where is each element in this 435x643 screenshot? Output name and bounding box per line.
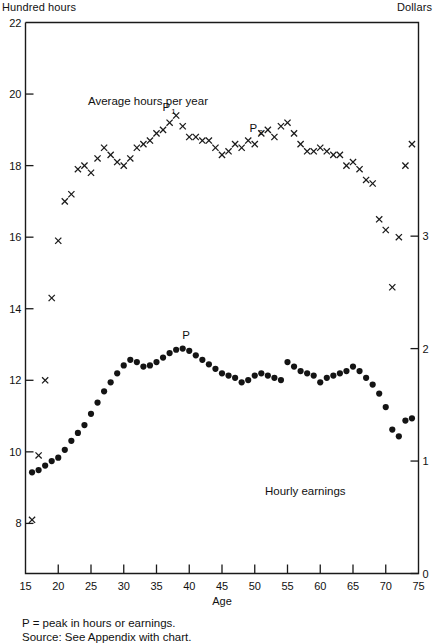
data-point-hours	[252, 141, 258, 147]
data-point-hours	[337, 152, 343, 158]
data-point-hours	[88, 170, 94, 176]
data-point-earnings	[147, 362, 153, 368]
data-point-earnings	[402, 417, 408, 423]
data-point-earnings	[173, 347, 179, 353]
axis-tick-labels: 2220181614121083210152025303540455055606…	[9, 17, 428, 607]
data-point-hours	[212, 145, 218, 151]
data-point-earnings	[271, 375, 277, 381]
data-point-earnings	[94, 399, 100, 405]
y-left-tick-label: 22	[9, 17, 21, 29]
x-tick-label: 65	[347, 580, 359, 592]
data-point-earnings	[409, 415, 415, 421]
data-point-earnings	[252, 372, 258, 378]
data-point-hours	[317, 145, 323, 151]
x-tick-label: 25	[85, 580, 97, 592]
data-point-hours	[62, 198, 68, 204]
x-tick-label: 75	[412, 580, 424, 592]
y-right-tick-label: 0	[423, 568, 429, 580]
data-point-earnings	[75, 430, 81, 436]
data-point-earnings	[101, 388, 107, 394]
data-point-earnings	[370, 381, 376, 387]
series-hourly-earnings	[29, 346, 415, 476]
data-point-earnings	[140, 363, 146, 369]
x-axis-label: Age	[212, 595, 232, 607]
data-point-hours	[278, 123, 284, 129]
data-point-hours	[101, 145, 107, 151]
data-point-earnings	[127, 357, 133, 363]
peak-p1-subscript: 1	[171, 107, 176, 116]
data-point-earnings	[350, 363, 356, 369]
data-point-hours	[291, 130, 297, 136]
data-point-hours	[356, 166, 362, 172]
data-point-earnings	[55, 455, 61, 461]
data-point-earnings	[304, 370, 310, 376]
data-point-earnings	[153, 359, 159, 365]
series-average-hours-per-year	[29, 112, 415, 523]
data-point-hours	[167, 120, 173, 126]
data-point-hours	[147, 137, 153, 143]
data-point-earnings	[199, 357, 205, 363]
x-tick-label: 35	[150, 580, 162, 592]
y-left-tick-label: 8	[15, 517, 21, 529]
data-point-hours	[376, 216, 382, 222]
x-tick-label: 50	[249, 580, 261, 592]
data-point-hours	[389, 284, 395, 290]
data-point-hours	[298, 141, 304, 147]
x-tick-label: 45	[216, 580, 228, 592]
data-point-hours	[271, 134, 277, 140]
data-point-earnings	[88, 411, 94, 417]
data-point-hours	[311, 148, 317, 154]
data-point-hours	[160, 127, 166, 133]
data-point-earnings	[317, 379, 323, 385]
data-point-hours	[114, 159, 120, 165]
data-point-earnings	[311, 372, 317, 378]
data-point-hours	[108, 152, 114, 158]
data-point-earnings	[42, 462, 48, 468]
data-point-earnings	[389, 426, 395, 432]
label-hourly-earnings: Hourly earnings	[265, 485, 346, 497]
data-point-hours	[206, 137, 212, 143]
data-point-earnings	[180, 346, 186, 352]
data-point-earnings	[108, 379, 114, 385]
data-point-earnings	[121, 362, 127, 368]
data-point-hours	[402, 163, 408, 169]
data-point-hours	[383, 227, 389, 233]
data-point-earnings	[284, 359, 290, 365]
data-point-earnings	[330, 372, 336, 378]
data-point-earnings	[396, 433, 402, 439]
x-tick-label: 55	[281, 580, 293, 592]
chart-annotations: Average hours per yearHourly earningsP1P…	[88, 95, 346, 497]
data-point-hours	[134, 145, 140, 151]
data-point-earnings	[36, 467, 42, 473]
peak-p1: P	[162, 101, 170, 113]
data-point-hours	[94, 155, 100, 161]
data-point-earnings	[324, 375, 330, 381]
data-point-earnings	[160, 354, 166, 360]
x-tick-label: 40	[183, 580, 195, 592]
data-point-earnings	[193, 352, 199, 358]
y-left-tick-label: 16	[9, 231, 21, 243]
data-point-earnings	[114, 370, 120, 376]
data-point-earnings	[245, 377, 251, 383]
data-point-hours	[55, 238, 61, 244]
data-point-earnings	[49, 458, 55, 464]
footnote-peak: P = peak in hours or earnings.	[22, 617, 176, 629]
x-tick-label: 15	[19, 580, 31, 592]
data-point-earnings	[278, 377, 284, 383]
y-left-tick-label: 10	[9, 446, 21, 458]
data-point-earnings	[337, 370, 343, 376]
x-tick-label: 20	[52, 580, 64, 592]
data-point-earnings	[212, 366, 218, 372]
data-point-hours	[330, 152, 336, 158]
data-point-hours	[180, 123, 186, 129]
y-left-tick-label: 20	[9, 88, 21, 100]
x-tick-label: 30	[118, 580, 130, 592]
data-point-hours	[193, 134, 199, 140]
y-left-tick-label: 14	[9, 303, 21, 315]
axis-frame	[26, 23, 419, 574]
y-left-tick-label: 18	[9, 160, 21, 172]
data-point-hours	[127, 155, 133, 161]
data-point-hours	[225, 148, 231, 154]
peak-p-earnings: P	[182, 329, 190, 341]
